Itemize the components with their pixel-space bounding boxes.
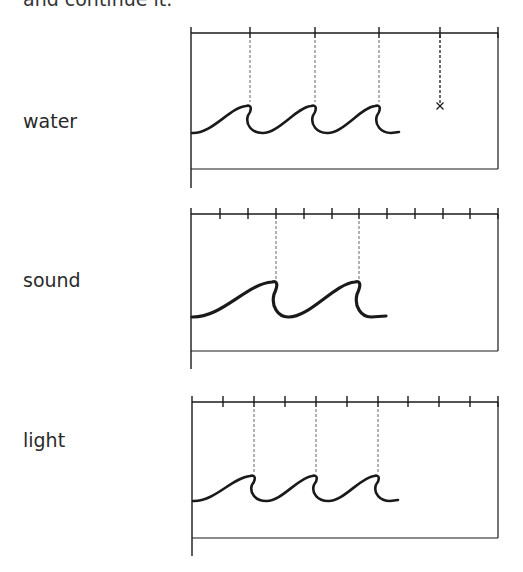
wave-curve (192, 106, 399, 133)
panel-light (192, 396, 498, 556)
wave-curve (192, 282, 386, 317)
panel-sound (191, 208, 498, 369)
panel-water (191, 27, 498, 188)
wave-diagrams (0, 0, 523, 572)
wave-curve (193, 476, 398, 501)
